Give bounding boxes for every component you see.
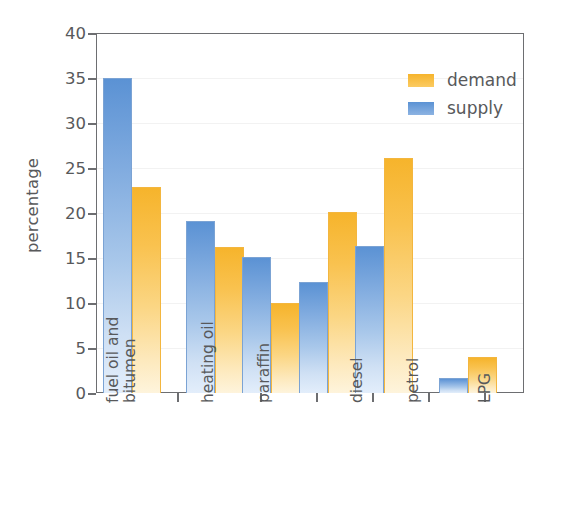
y-tick-mark [88,168,96,170]
y-tick-mark [88,33,96,35]
y-axis-title: percentage [23,136,42,276]
y-tick-mark [88,348,96,350]
x-label-heating-oil: heating oil [200,321,217,403]
legend-swatch-supply-icon [408,102,434,115]
x-label-line1: fuel oil and [104,317,122,403]
bar-supply-diesel [299,282,328,393]
y-tick-label-5: 5 [50,341,86,358]
x-label-lpg: LPG [477,373,494,403]
x-tick-mark [428,393,430,402]
legend-label-supply: supply [447,98,503,118]
y-tick-mark [88,78,96,80]
legend-item-supply: supply [408,94,517,122]
y-tick-label-30: 30 [50,116,86,133]
bar-demand-paraffin [271,303,300,393]
bar-chart: percentage 40 35 30 25 20 15 10 5 0 [0,0,562,513]
y-tick-mark [88,123,96,125]
x-tick-mark [177,393,179,402]
y-tick-label-25: 25 [50,161,86,178]
x-label-paraffin: paraffin [256,343,273,403]
y-tick-label-0: 0 [50,386,86,403]
bar-supply-lpg [439,378,468,393]
legend: demand supply [408,66,517,122]
y-tick-label-15: 15 [50,251,86,268]
y-tick-mark [88,213,96,215]
x-label-diesel: diesel [349,357,366,403]
y-tick-mark [88,303,96,305]
y-tick-label-40: 40 [50,26,86,43]
legend-swatch-demand-icon [408,74,434,87]
y-tick-label-10: 10 [50,296,86,313]
legend-item-demand: demand [408,66,517,94]
x-tick-mark [316,393,318,402]
y-tick-mark [88,258,96,260]
bar-demand-heating-oil [215,247,244,393]
x-label-line2: bitumen [122,317,139,403]
x-tick-mark [372,393,374,402]
y-tick-mark [88,393,96,395]
x-label-petrol: petrol [405,358,422,403]
legend-label-demand: demand [447,70,517,90]
y-tick-label-20: 20 [50,206,86,223]
x-label-fuel-oil-and-bitumen: fuel oil andbitumen [105,317,140,403]
y-tick-label-35: 35 [50,71,86,88]
